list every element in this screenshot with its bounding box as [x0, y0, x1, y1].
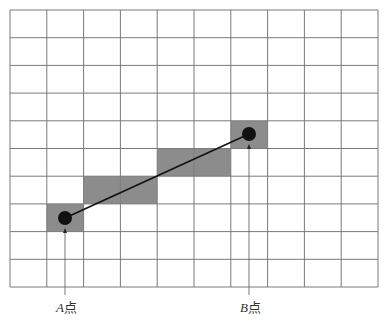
shaded-cell	[194, 149, 231, 177]
point-a-suffix: 点	[64, 300, 77, 315]
point-b-suffix: 点	[248, 300, 261, 315]
line-rasterization-diagram	[0, 0, 386, 324]
point-b-letter: B	[240, 300, 248, 315]
shaded-cell	[84, 176, 121, 204]
point-b-label: B点	[240, 297, 261, 316]
point-a-marker	[58, 211, 72, 225]
point-a-letter: A	[56, 300, 64, 315]
point-a-label: A点	[56, 297, 77, 316]
point-b-marker	[242, 127, 256, 141]
